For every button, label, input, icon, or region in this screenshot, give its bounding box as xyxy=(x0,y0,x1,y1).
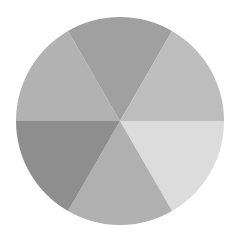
pie-chart xyxy=(0,0,231,236)
